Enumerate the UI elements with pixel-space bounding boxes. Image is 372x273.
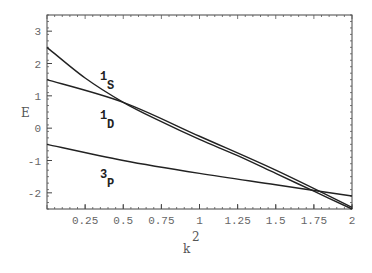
x-tick-label: 0.5 — [113, 215, 133, 227]
x-tick-label: 0.25 — [72, 215, 98, 227]
curve-label-1S-sub: S — [107, 79, 114, 93]
y-tick-label: 3 — [34, 26, 41, 38]
y-tick-label: 0 — [34, 123, 41, 135]
y-tick-label: 1 — [34, 91, 41, 103]
x-tick-label: 2 — [349, 215, 356, 227]
plot-frame — [47, 15, 352, 209]
x-axis-label-exponent: 2 — [192, 230, 200, 244]
x-tick-label: 1 — [196, 215, 203, 227]
curve-label-3P-sub: P — [107, 177, 114, 191]
x-tick-label: 0.75 — [148, 215, 174, 227]
curve-label-1D-sub: D — [107, 118, 114, 132]
x-tick-label: 1.25 — [224, 215, 250, 227]
x-tick-label: 1.5 — [266, 215, 286, 227]
y-tick-label: -2 — [28, 188, 41, 200]
y-tick-label: 2 — [34, 59, 41, 71]
chart: 0.250.50.7511.251.51.7523210-1-2Ek21S1D3… — [0, 0, 372, 273]
x-tick-label: 1.75 — [301, 215, 327, 227]
y-axis-label: E — [21, 106, 30, 120]
x-axis-label: k — [183, 242, 191, 256]
y-tick-label: -1 — [28, 156, 42, 168]
